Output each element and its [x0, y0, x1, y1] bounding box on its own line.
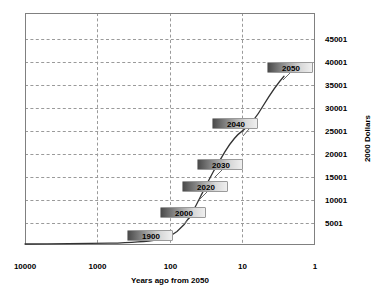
- y-axis-tick-label: 10001: [325, 196, 347, 205]
- x-axis-tick-label: 1: [303, 262, 327, 271]
- data-label-text: 1900: [128, 232, 174, 241]
- y-axis-tick-label: 30001: [325, 104, 347, 113]
- data-label-text: 2040: [213, 120, 259, 129]
- x-axis-tick-label: 10: [228, 262, 257, 271]
- data-label-text: 2030: [198, 161, 244, 170]
- data-label-callout: 1900: [127, 230, 173, 241]
- x-axis-tick-label: 100: [154, 262, 187, 271]
- data-label-text: 2050: [268, 64, 314, 73]
- y-axis-tick-label: 5001: [325, 219, 343, 228]
- y-axis-tick-label: 15001: [325, 173, 347, 182]
- x-axis-title: Years ago from 2050: [100, 276, 240, 285]
- y-axis-tick-label: 20001: [325, 150, 347, 159]
- y-axis-title: 2000 Dollars: [363, 99, 372, 179]
- data-label-callout: 2020: [182, 181, 228, 192]
- chart-container: 45001 40001 35001 30001 25001 20001 1500…: [0, 0, 383, 300]
- data-label-text: 2000: [161, 209, 207, 218]
- y-axis-tick-label: 35001: [325, 81, 347, 90]
- data-label-callout: 2050: [267, 62, 313, 73]
- data-label-callout: 2040: [212, 118, 258, 129]
- y-axis-tick-label: 45001: [325, 35, 347, 44]
- data-label-callout: 2030: [197, 159, 243, 170]
- x-axis-tick-label: 10000: [5, 262, 45, 271]
- data-label-callout: 2000: [160, 207, 206, 218]
- y-axis-tick-label: 25001: [325, 127, 347, 136]
- data-label-text: 2020: [183, 183, 229, 192]
- x-axis-tick-label: 1000: [79, 262, 116, 271]
- y-axis-tick-label: 40001: [325, 58, 347, 67]
